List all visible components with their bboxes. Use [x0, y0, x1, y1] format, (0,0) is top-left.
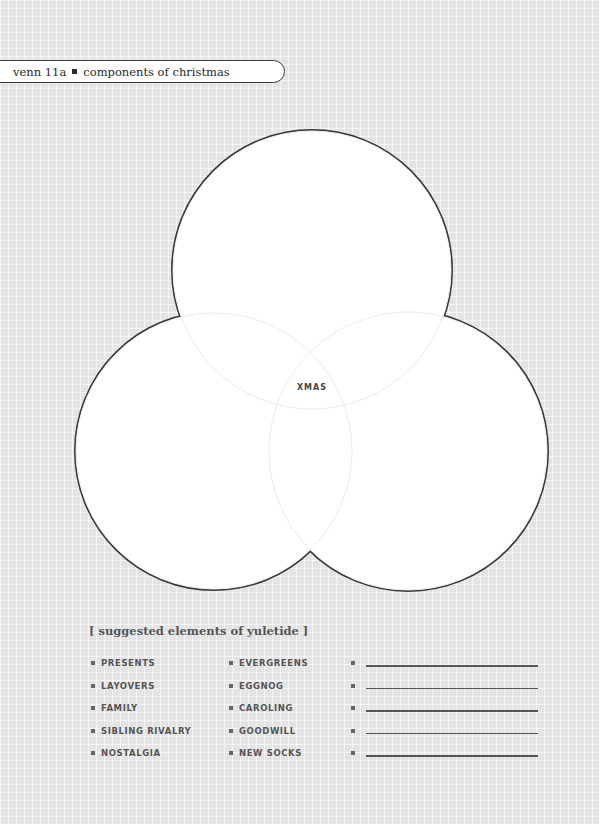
- blank-line[interactable]: [366, 755, 538, 757]
- blank-line[interactable]: [366, 710, 538, 712]
- suggestions-column-2: EVERGREENS EGGNOG CAROLING GOODWILL NEW …: [229, 652, 308, 765]
- square-bullet-icon: [91, 684, 95, 688]
- square-bullet-icon: [229, 706, 233, 710]
- venn-center-label: XMAS: [286, 383, 338, 392]
- square-bullet-icon: [91, 751, 95, 755]
- suggestion-item: NEW SOCKS: [229, 742, 308, 765]
- blank-entry[interactable]: [351, 697, 538, 720]
- blank-entry[interactable]: [351, 652, 538, 675]
- suggestion-item: GOODWILL: [229, 720, 308, 743]
- blank-line[interactable]: [366, 688, 538, 690]
- suggestions-column-1: PRESENTS LAYOVERS FAMILY SIBLING RIVALRY…: [91, 652, 191, 765]
- suggestion-item: FAMILY: [91, 697, 191, 720]
- blank-entry[interactable]: [351, 675, 538, 698]
- square-bullet-icon: [229, 729, 233, 733]
- suggestion-item: EGGNOG: [229, 675, 308, 698]
- square-bullet-icon: [91, 661, 95, 665]
- square-bullet-icon: [351, 729, 355, 733]
- suggestion-item: PRESENTS: [91, 652, 191, 675]
- suggestion-item: LAYOVERS: [91, 675, 191, 698]
- square-bullet-icon: [351, 751, 355, 755]
- square-bullet-icon: [229, 661, 233, 665]
- suggestions-title: [ suggested elements of yuletide ]: [89, 624, 308, 638]
- suggestion-item: NOSTALGIA: [91, 742, 191, 765]
- suggestion-item: SIBLING RIVALRY: [91, 720, 191, 743]
- suggestion-item: EVERGREENS: [229, 652, 308, 675]
- square-bullet-icon: [351, 684, 355, 688]
- suggestion-item: CAROLING: [229, 697, 308, 720]
- blank-line[interactable]: [366, 733, 538, 735]
- blank-entry[interactable]: [351, 720, 538, 743]
- square-bullet-icon: [91, 729, 95, 733]
- blank-entry[interactable]: [351, 742, 538, 765]
- square-bullet-icon: [351, 661, 355, 665]
- square-bullet-icon: [351, 706, 355, 710]
- square-bullet-icon: [229, 684, 233, 688]
- suggestions-column-blanks: [351, 652, 538, 765]
- square-bullet-icon: [229, 751, 233, 755]
- square-bullet-icon: [91, 706, 95, 710]
- blank-line[interactable]: [366, 665, 538, 667]
